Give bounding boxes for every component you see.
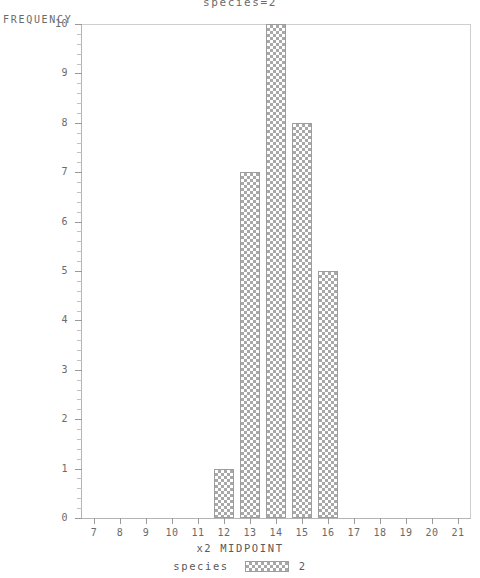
legend-swatch-species-2 (245, 561, 289, 572)
y-axis-tick-label: 0 (0, 512, 68, 523)
x-axis-title: x2 MIDPOINT (0, 542, 480, 554)
x-axis-tick (276, 518, 277, 524)
histogram-bar (240, 172, 261, 518)
chart-title: species=2 (0, 0, 480, 9)
x-axis-tick (146, 518, 147, 524)
x-axis-tick (406, 518, 407, 524)
legend-label-species-2: 2 (299, 560, 307, 572)
y-axis-tick-label: 6 (0, 216, 68, 227)
chart-legend: species 2 (0, 560, 480, 572)
x-axis-tick (354, 518, 355, 524)
x-axis-tick (250, 518, 251, 524)
x-axis-tick (120, 518, 121, 524)
plot-area (81, 24, 471, 518)
y-axis-tick-label: 4 (0, 314, 68, 325)
y-axis-tick-label: 7 (0, 166, 68, 177)
y-axis-tick-label: 2 (0, 413, 68, 424)
y-axis-tick (75, 518, 82, 519)
x-axis-tick (94, 518, 95, 524)
x-axis-tick (458, 518, 459, 524)
x-axis-tick (302, 518, 303, 524)
histogram-bar (214, 469, 235, 518)
x-axis-tick (432, 518, 433, 524)
legend-title: species (173, 560, 228, 572)
y-axis-tick-label: 9 (0, 67, 68, 78)
histogram-bar (266, 24, 287, 518)
x-axis-tick-label: 21 (443, 527, 473, 538)
histogram-bar (318, 271, 339, 518)
x-axis-tick (198, 518, 199, 524)
y-axis-tick-label: 10 (0, 18, 68, 29)
x-axis-tick (172, 518, 173, 524)
x-axis-tick (224, 518, 225, 524)
y-axis-tick-label: 5 (0, 265, 68, 276)
x-axis-tick (380, 518, 381, 524)
y-axis-tick-label: 3 (0, 364, 68, 375)
y-axis-tick-label: 1 (0, 463, 68, 474)
x-axis-tick (328, 518, 329, 524)
y-axis-tick-label: 8 (0, 117, 68, 128)
histogram-bar (292, 123, 313, 518)
